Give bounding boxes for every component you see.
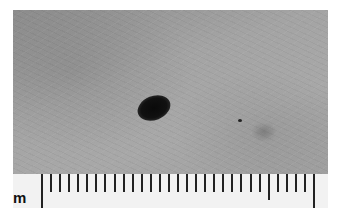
ruler-tick: [177, 174, 179, 192]
ruler-tick: [186, 174, 188, 192]
ruler-tick: [304, 174, 306, 192]
ruler-tick: [313, 174, 315, 208]
ruler-tick: [86, 174, 88, 192]
ruler-tick: [222, 174, 224, 192]
ruler-tick: [150, 174, 152, 192]
ruler-tick: [295, 174, 297, 192]
skin-texture: [13, 10, 328, 174]
ruler-tick: [240, 174, 242, 192]
ruler-tick: [250, 174, 252, 192]
ruler-tick: [50, 174, 52, 192]
ruler-tick: [259, 174, 261, 192]
ruler-tick: [68, 174, 70, 192]
ruler-tick: [77, 174, 79, 192]
ruler-tick: [132, 174, 134, 192]
ruler-tick: [95, 174, 97, 192]
ruler-tick: [286, 174, 288, 192]
ruler: m: [13, 174, 328, 208]
skin-photo: m: [13, 10, 328, 208]
ruler-tick: [268, 174, 270, 200]
ruler-tick: [231, 174, 233, 192]
ruler-tick: [168, 174, 170, 192]
ruler-tick: [204, 174, 206, 192]
ruler-tick: [104, 174, 106, 192]
skin-smudge: [251, 122, 277, 142]
ruler-tick: [195, 174, 197, 192]
ruler-tick: [114, 174, 116, 192]
ruler-tick: [141, 174, 143, 192]
ruler-tick: [159, 174, 161, 192]
ruler-unit-label: m: [13, 189, 26, 206]
ruler-tick: [59, 174, 61, 192]
skin-speck: [238, 119, 242, 122]
ruler-tick: [41, 174, 43, 208]
ruler-tick: [123, 174, 125, 192]
ruler-tick: [277, 174, 279, 192]
ruler-tick: [213, 174, 215, 192]
